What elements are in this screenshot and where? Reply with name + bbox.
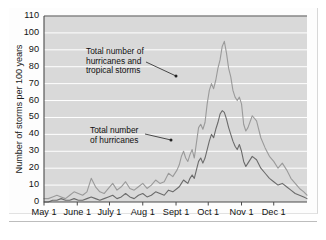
y-tick-label: 100 <box>13 28 39 37</box>
y-tick-label: 80 <box>13 62 39 71</box>
y-tick-label: 90 <box>13 45 39 54</box>
plot-background <box>44 16 307 202</box>
annotation-hurricanes: Total number of hurricanes <box>90 126 138 145</box>
y-tick-label: 20 <box>13 163 39 172</box>
y-tick-label: 0 <box>13 197 39 206</box>
bottom-rule <box>9 221 317 222</box>
annotation-storms: Total number of hurricanes and tropical … <box>86 47 144 76</box>
line-chart <box>0 0 326 240</box>
annotation-storms-line3: tropical storms <box>86 66 144 76</box>
y-tick-label: 70 <box>13 79 39 88</box>
y-tick-label: 30 <box>13 146 39 155</box>
chart-figure: Number of storms per 100 years 010203040… <box>0 0 326 240</box>
plot-area-wrapper <box>0 0 326 240</box>
y-tick-label: 40 <box>13 129 39 138</box>
y-tick-label: 60 <box>13 96 39 105</box>
y-tick-label: 110 <box>13 11 39 20</box>
y-tick-label: 50 <box>13 112 39 121</box>
x-tick-label: Dec 1 <box>252 207 296 217</box>
annotation-hurricanes-line2: of hurricanes <box>90 136 138 146</box>
y-tick-label: 10 <box>13 180 39 189</box>
